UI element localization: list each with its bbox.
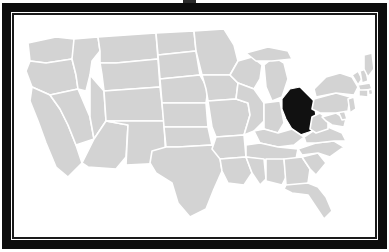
state-oklahoma <box>164 127 212 147</box>
us-map-svg <box>16 17 374 236</box>
state-michigan-upper <box>246 47 292 61</box>
state-maine <box>364 53 374 77</box>
state-iowa <box>202 75 238 101</box>
state-wyoming <box>100 59 160 91</box>
map-canvas <box>15 16 374 236</box>
states-layer <box>26 29 374 219</box>
map-figure <box>0 0 389 252</box>
us-states-map <box>16 17 374 236</box>
state-south-dakota <box>158 51 200 79</box>
state-colorado <box>104 87 164 121</box>
state-nebraska <box>160 75 208 103</box>
state-alabama <box>266 159 286 185</box>
state-florida <box>284 183 332 219</box>
state-indiana <box>264 101 284 133</box>
state-kansas <box>162 103 208 127</box>
state-texas <box>150 145 222 217</box>
state-new-jersey <box>348 97 356 113</box>
state-missouri <box>208 99 250 137</box>
state-arkansas <box>212 135 246 159</box>
state-minnesota <box>194 29 238 75</box>
state-michigan-lower <box>264 57 288 101</box>
state-new-york <box>314 73 358 97</box>
state-montana <box>98 33 158 63</box>
state-connecticut <box>359 90 368 97</box>
state-north-carolina <box>298 141 344 157</box>
